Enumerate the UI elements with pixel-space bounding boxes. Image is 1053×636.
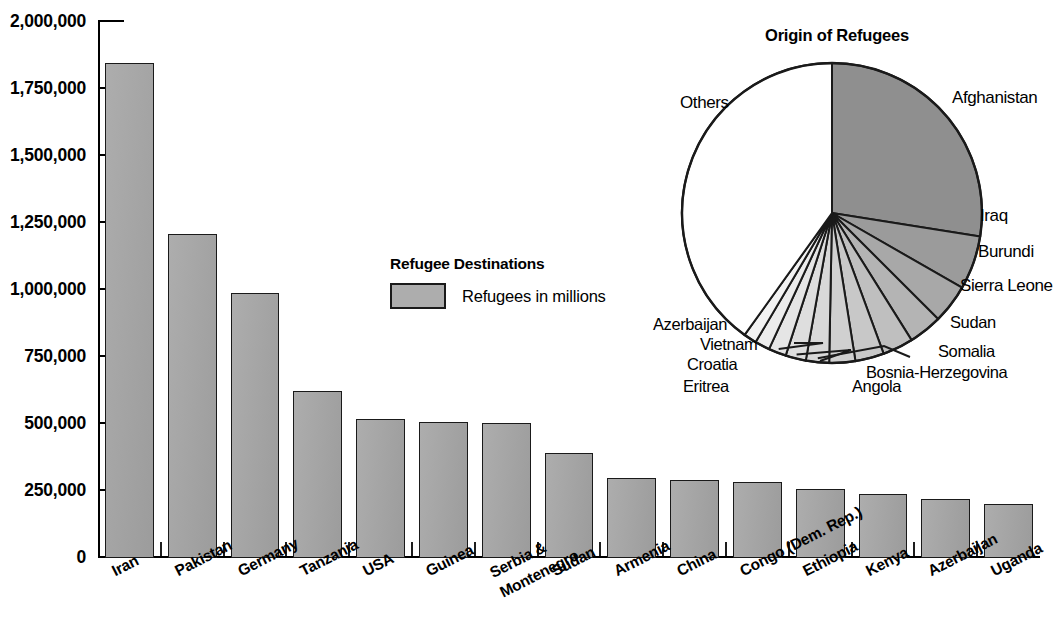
y-axis-tick-label: 750,000 bbox=[0, 346, 86, 367]
pie-slice-label: Croatia bbox=[687, 355, 737, 374]
legend-swatch-icon bbox=[390, 283, 446, 309]
bar-fill bbox=[232, 294, 279, 557]
bar-fill bbox=[169, 235, 216, 557]
legend-row: Refugees in millions bbox=[390, 283, 606, 309]
legend-title: Refugee Destinations bbox=[390, 255, 606, 273]
pie-chart: Origin of Refugees AfghanistanIraqBurund… bbox=[660, 20, 1045, 380]
bar bbox=[231, 293, 280, 558]
pie-slice-label: Iraq bbox=[980, 206, 1008, 226]
legend: Refugee Destinations Refugees in million… bbox=[390, 255, 606, 309]
bar bbox=[419, 422, 468, 558]
y-axis-tick-label: 250,000 bbox=[0, 480, 86, 501]
x-axis-tick bbox=[411, 542, 413, 556]
bar bbox=[482, 423, 531, 558]
x-axis-tick bbox=[913, 542, 915, 556]
pie-slice-label: Somalia bbox=[938, 342, 995, 361]
pie-slice-label: Sudan bbox=[950, 313, 996, 332]
y-axis-tick-label: 0 bbox=[0, 547, 86, 568]
bar bbox=[105, 63, 154, 558]
pie-slice-label: Afghanistan bbox=[952, 88, 1037, 108]
pie-slice-label: Angola bbox=[852, 377, 901, 396]
pie-slice-label: Sierra Leone bbox=[960, 276, 1053, 296]
bar bbox=[168, 234, 217, 558]
bar-fill bbox=[106, 64, 153, 557]
y-axis-tick-label: 1,750,000 bbox=[0, 78, 86, 99]
x-axis-tick bbox=[160, 542, 162, 556]
bar-fill bbox=[294, 392, 341, 557]
y-axis-tick-label: 2,000,000 bbox=[0, 11, 86, 32]
bar-fill bbox=[357, 420, 404, 557]
pie-slice-label: Others bbox=[680, 93, 729, 113]
y-axis-tick-label: 1,250,000 bbox=[0, 212, 86, 233]
pie-slice-label: Vietnam bbox=[700, 335, 757, 354]
bar-fill bbox=[420, 423, 467, 557]
bar-fill bbox=[483, 424, 530, 557]
y-axis-tick-label: 500,000 bbox=[0, 413, 86, 434]
pie-slice-label: Eritrea bbox=[683, 377, 729, 396]
legend-label: Refugees in millions bbox=[462, 287, 606, 306]
y-axis-tick bbox=[98, 20, 124, 22]
x-axis-tick bbox=[725, 542, 727, 556]
pie-slice-label: Azerbaijan bbox=[653, 315, 727, 334]
pie-slice-label: Burundi bbox=[978, 242, 1034, 262]
bar bbox=[293, 391, 342, 558]
bar bbox=[356, 419, 405, 558]
y-axis-tick-label: 1,000,000 bbox=[0, 279, 86, 300]
x-axis-tick bbox=[599, 542, 601, 556]
y-axis-tick-label: 1,500,000 bbox=[0, 145, 86, 166]
